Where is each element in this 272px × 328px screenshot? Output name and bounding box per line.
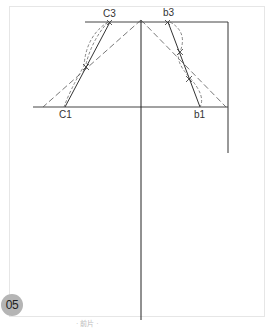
left-dashed-curve-2 [86, 22, 108, 64]
left-dashed-curve [64, 22, 108, 107]
label-b1: b1 [194, 110, 205, 120]
figure-number-badge: 05 [1, 294, 23, 316]
label-c1: C1 [59, 110, 72, 120]
left-solid-line [65, 22, 110, 107]
right-dashed-curve [170, 22, 202, 107]
label-b3: b3 [163, 8, 174, 18]
label-c3: C3 [103, 9, 116, 19]
figure-caption: · 前片 · [76, 318, 99, 328]
right-solid-line [168, 22, 200, 107]
left-dashed-diagonal [43, 20, 141, 107]
